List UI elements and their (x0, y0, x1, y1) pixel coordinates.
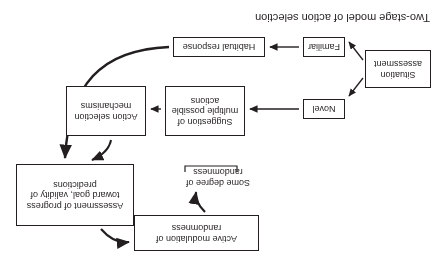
edge-situation-to-novel (349, 78, 363, 96)
edge-action-selection-to-assessment (92, 140, 111, 160)
node-suggestion-of-multiple-possible-actions: Suggestion of multiple possible actions (165, 86, 245, 136)
figure-caption: Two-stage model of action selection (255, 12, 430, 24)
node-habitual-response: Habitual response (173, 37, 265, 57)
node-novel: Novel (303, 99, 345, 119)
figure-canvas: Situation assessment Novel Familiar Habi… (0, 0, 441, 256)
edge-situation-to-familiar (349, 42, 363, 60)
label-some-degree-of-randomness: Some degree of randomness (172, 167, 264, 188)
node-action-selection-mechanisms: Action selection mechanisms (66, 86, 146, 136)
edge-active-modulation-to-some-degree (196, 192, 205, 212)
edge-assessment-to-active-modulation (101, 229, 129, 242)
node-assessment-of-progress: Assessment of progress toward goal, vali… (16, 164, 134, 226)
node-familiar: Familiar (303, 37, 345, 57)
two-stage-model-diagram: Situation assessment Novel Familiar Habi… (0, 0, 441, 256)
node-active-modulation-of-randomness: Active modulation of randomness (134, 215, 259, 251)
node-situation-assessment: Situation assessment (365, 50, 431, 88)
